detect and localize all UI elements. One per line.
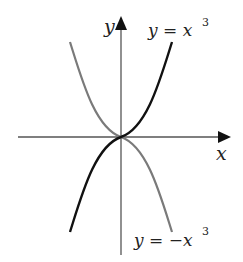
curve-neg-cube-exponent: 3	[202, 225, 209, 238]
y-axis-arrow-icon	[115, 16, 127, 30]
curve-cube-label: y = x	[147, 20, 193, 40]
curve-cube-exponent: 3	[202, 16, 209, 29]
cubic-graphs-diagram: y x y = x 3 y = −x 3	[0, 0, 243, 262]
y-axis-label: y	[103, 15, 115, 37]
x-axis-label: x	[216, 142, 227, 164]
curve-neg-cube-label: y = −x	[133, 230, 193, 250]
